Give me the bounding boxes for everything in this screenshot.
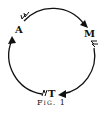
arrowhead-icon — [8, 36, 16, 44]
fletching-icon — [42, 90, 47, 96]
figure-caption: Fig. 1 — [0, 98, 103, 107]
arc-a-to-m — [24, 8, 84, 24]
node-label-m: M — [84, 29, 95, 39]
arc-t-to-a — [9, 40, 42, 94]
fletching-icon — [91, 41, 98, 47]
arrowhead-icon — [58, 90, 66, 98]
node-label-a: A — [15, 25, 23, 35]
arc-m-to-t — [62, 48, 95, 94]
